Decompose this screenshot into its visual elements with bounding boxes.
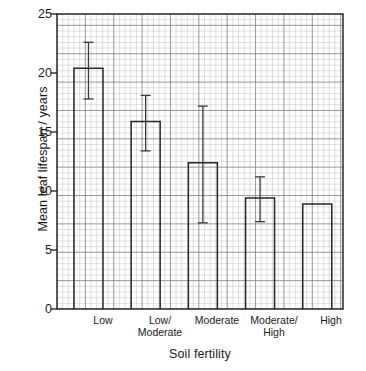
bar-5 [303,204,332,309]
plot-canvas [0,0,366,371]
bar-chart-figure: Mean leaf lifespan / years Soil fertilit… [0,0,366,371]
y-axis-tickmarks [51,14,57,309]
bar-1 [74,68,103,309]
grid-minor [57,14,343,309]
error-bar-4 [255,177,265,222]
error-bar-3 [198,106,208,223]
